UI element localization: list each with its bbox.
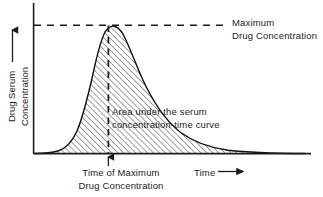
y-axis-label: Drug Serum Concentration (6, 42, 31, 152)
tmax-label: Time of Maximum Drug Concentration (58, 167, 184, 192)
max-concentration-label: Maximum Drug Concentration (232, 17, 317, 42)
auc-label: Area under the serum concentration-time … (112, 106, 220, 131)
tmax-label-line2: Drug Concentration (58, 180, 184, 193)
tmax-label-line1: Time of Maximum (58, 167, 184, 180)
auc-label-line1: Area under the serum (112, 106, 220, 119)
auc-label-line2: concentration-time curve (112, 119, 220, 132)
y-axis-label-line2: Concentration (18, 42, 31, 152)
max-concentration-label-line1: Maximum (232, 17, 317, 30)
max-concentration-label-line2: Drug Concentration (232, 30, 317, 43)
y-axis-label-line1: Drug Serum (6, 42, 19, 152)
x-axis-label: Time (194, 167, 215, 180)
